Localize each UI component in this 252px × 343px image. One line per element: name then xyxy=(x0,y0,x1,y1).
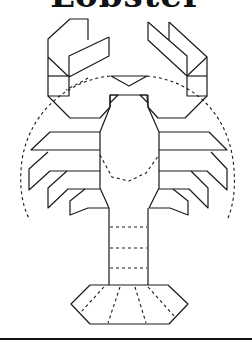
body xyxy=(100,107,159,208)
left-legs xyxy=(29,132,109,215)
tail-segments xyxy=(109,208,148,285)
right-legs xyxy=(149,132,227,215)
right-claw xyxy=(148,22,207,118)
lobster-diagram xyxy=(0,0,252,343)
left-claw xyxy=(48,19,110,118)
antennae xyxy=(21,76,235,220)
tail-fan xyxy=(71,285,188,324)
head xyxy=(110,76,148,107)
